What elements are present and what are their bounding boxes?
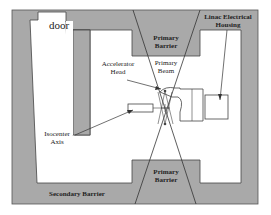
door-label: door <box>49 19 70 31</box>
linac-electrical-housing <box>205 95 228 119</box>
primary-beam-label: Primary <box>155 59 178 67</box>
accelerator-head-label-2: Head <box>111 68 126 76</box>
secondary-barrier-label: Secondary Barrier <box>49 190 105 198</box>
linac-housing-label: Linac Electrical <box>204 13 252 21</box>
primary-barrier-top-label-2: Barrier <box>155 42 178 50</box>
accelerator-head-label: Accelerator <box>102 60 135 68</box>
door-corridor <box>66 21 73 135</box>
primary-barrier-bottom-label-2: Barrier <box>155 176 178 184</box>
counterweight-point-icon <box>164 123 167 126</box>
isocenter-label-2: Axis <box>50 138 64 146</box>
source-point-icon <box>164 90 167 93</box>
linac-housing-label-2: Housing <box>216 21 241 29</box>
maze-column <box>73 30 90 135</box>
isocenter-label: Isocenter <box>44 130 70 138</box>
primary-barrier-bottom-label: Primary <box>153 168 179 176</box>
primary-beam-label-2: Beam <box>158 67 175 75</box>
primary-barrier-top-label: Primary <box>153 34 179 42</box>
vault-diagram: door Primary Barrier Primary Beam Accele… <box>0 0 271 215</box>
